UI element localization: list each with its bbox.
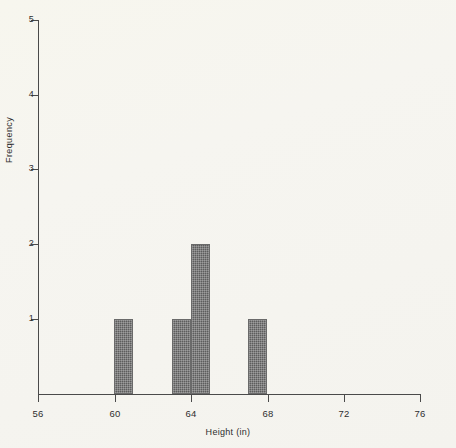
histogram-bar	[248, 319, 267, 394]
plot-area	[0, 0, 456, 448]
histogram-bar	[191, 244, 210, 394]
histogram-chart: 1 2 3 4 5 56 60 64 68 72 76 Height (in) …	[0, 0, 456, 448]
histogram-bar	[114, 319, 133, 394]
y-axis-title: Frequency	[4, 117, 14, 163]
histogram-bar	[172, 319, 191, 394]
x-axis-title: Height (in)	[0, 427, 456, 437]
